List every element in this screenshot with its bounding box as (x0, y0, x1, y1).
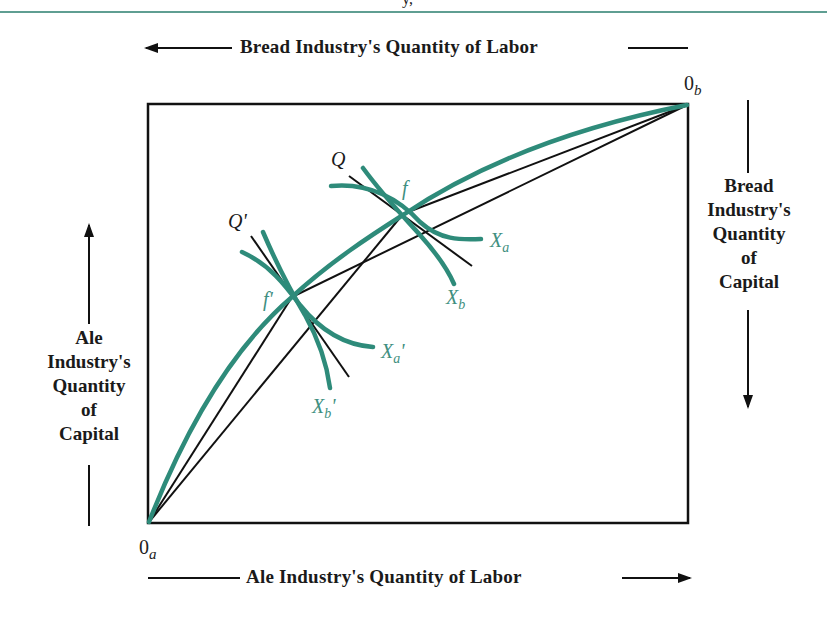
origin-bread: 0b (684, 72, 702, 99)
label-f-prime: f' (263, 288, 273, 311)
ray-f-ob (403, 105, 687, 214)
right-axis-label: Bread Industry's Quantity of Capital (690, 174, 808, 294)
label-xa: Xa (490, 229, 509, 256)
edgeworth-box (148, 104, 688, 523)
label-xb: Xb (446, 286, 465, 313)
label-q-prime: Q' (228, 210, 247, 233)
contract-curve (149, 105, 687, 522)
label-xb-prime: Xb' (312, 395, 336, 422)
ray-fprime-ob (292, 105, 687, 297)
origin-ale: 0a (139, 536, 157, 563)
label-q: Q (331, 148, 345, 171)
top-axis-label: Bread Industry's Quantity of Labor (240, 36, 538, 58)
ray-oa-fprime (149, 297, 292, 522)
bottom-axis-label: Ale Industry's Quantity of Labor (246, 566, 522, 588)
isoquant-xb-prime (263, 232, 330, 388)
label-xa-prime: Xa' (381, 340, 405, 367)
left-axis-label: Ale Industry's Quantity of Capital (30, 326, 148, 446)
edgeworth-box-diagram (0, 0, 827, 621)
label-f: f (402, 177, 408, 200)
